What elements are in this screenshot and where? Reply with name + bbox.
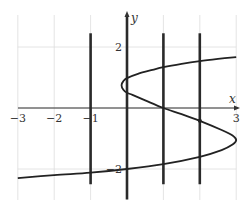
intersection-dot xyxy=(198,119,202,123)
x-tick-label: −3 xyxy=(10,112,26,125)
y-tick-label: 2 xyxy=(115,41,122,54)
x-axis-label: x xyxy=(229,92,236,106)
x-tick-label: −2 xyxy=(46,112,62,125)
x-tick-label: −1 xyxy=(82,112,98,125)
x-tick-label: 3 xyxy=(233,112,240,125)
y-axis-label: y xyxy=(130,11,138,25)
x-axis-arrow-icon xyxy=(234,106,240,111)
y-tick-label: −2 xyxy=(106,163,122,176)
y-axis-arrow-icon xyxy=(125,11,130,17)
graph: x y −3−2−132−2 xyxy=(0,0,248,206)
x-axis: x xyxy=(18,92,240,111)
